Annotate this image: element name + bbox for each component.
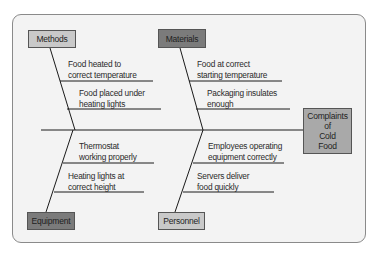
methods-category-box: Methods [28,30,76,48]
equipment-cause-1: Thermostat working properly [79,141,137,162]
personnel-category-box: Personnel [158,212,205,230]
personnel-label: Personnel [163,216,199,226]
methods-label: Methods [36,34,67,44]
equipment-label: Equipment [32,216,71,226]
personnel-cause-1: Employees operating equipment correctly [208,141,282,162]
methods-cause-2: Food placed under heating lights [79,88,145,109]
equipment-category-box: Equipment [27,212,75,230]
materials-cause-1: Food at correct starting temperature [197,59,267,80]
equipment-cause-2: Heating lights at correct height [68,171,124,192]
materials-cause-2: Packaging insulates enough [207,88,277,109]
effect-box: Complaints of Cold Food [303,108,352,154]
methods-cause-1: Food heated to correct temperature [68,59,137,80]
materials-category-box: Materials [158,29,206,48]
personnel-cause-2: Servers deliver food quickly [197,171,249,192]
materials-label: Materials [166,34,199,44]
effect-label: Complaints of Cold Food [307,111,348,151]
